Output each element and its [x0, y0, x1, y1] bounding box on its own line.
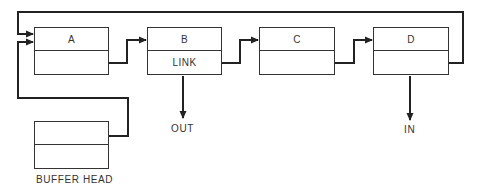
arrow-c-to-d — [334, 40, 372, 63]
node-b: B LINK — [147, 27, 222, 75]
node-a-bottom — [35, 51, 108, 74]
buffer-head-caption: BUFFER HEAD — [36, 174, 113, 185]
node-c-bottom — [260, 51, 334, 74]
node-d-bottom — [374, 51, 448, 74]
buffer-head-box — [34, 121, 109, 169]
buffer-head-bottom — [35, 145, 108, 168]
out-label: OUT — [171, 123, 194, 134]
node-d-top: D — [374, 28, 448, 51]
node-a-top: A — [35, 28, 108, 51]
node-c: C — [259, 27, 335, 75]
arrow-b-to-c — [221, 40, 258, 63]
node-b-top: B — [148, 28, 221, 51]
node-c-top: C — [260, 28, 334, 51]
buffer-head-top — [35, 122, 108, 145]
in-label: IN — [404, 124, 415, 135]
node-d: D — [373, 27, 449, 75]
arrow-a-to-b — [108, 40, 146, 63]
node-b-link: LINK — [148, 51, 221, 74]
node-a: A — [34, 27, 109, 75]
